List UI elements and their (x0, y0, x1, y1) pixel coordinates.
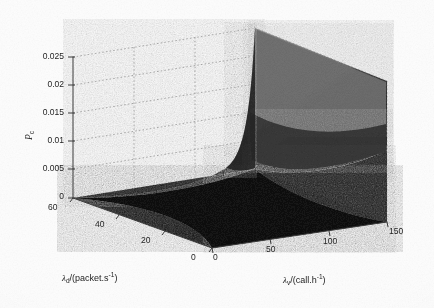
y-tick-label-150: 150 (389, 227, 403, 236)
x-tick-label-40: 40 (95, 220, 104, 229)
figure-surface-plot: 0.025 0.02 0.015 0.01 0.005 0 Pc 60 40 2… (0, 0, 434, 308)
y-axis-title: λv/(call.h-1) (283, 274, 326, 287)
x-tick-label-20: 20 (141, 236, 150, 245)
x-axis-title-close: ) (114, 273, 117, 283)
z-axis-title: Pc (24, 131, 36, 140)
x-tick-label-60: 60 (48, 203, 57, 212)
y-axis-title-unit: /(call.h (290, 275, 317, 285)
x-axis-title: λd/(packet.s-1) (62, 272, 117, 285)
z-tick-label-0015: 0.015 (26, 108, 64, 117)
z-tick-label-002: 0.02 (26, 80, 64, 89)
y-tick-label-100: 100 (323, 237, 337, 246)
x-tick-label-0: 0 (191, 253, 196, 262)
y-tick-label-50: 50 (266, 245, 275, 254)
z-axis-title-subscript: c (28, 131, 35, 134)
z-tick-label-0005: 0.005 (26, 164, 64, 173)
y-axis-title-close: ) (323, 275, 326, 285)
x-axis-title-unit: /(packet.s (70, 273, 109, 283)
y-tick-label-0: 0 (213, 253, 218, 262)
z-axis-title-symbol: P (24, 134, 34, 140)
z-tick-label-0: 0 (26, 192, 64, 201)
z-tick-label-0025: 0.025 (26, 52, 64, 61)
